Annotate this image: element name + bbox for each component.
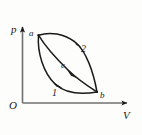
pv-diagram-canvas bbox=[0, 0, 142, 135]
process-curve-2 bbox=[39, 33, 98, 92]
state-point-b-label: b bbox=[100, 91, 105, 100]
state-point-b-marker bbox=[96, 91, 98, 93]
state-point-a-label: a bbox=[29, 29, 34, 38]
pressure-axis-label: p bbox=[11, 24, 17, 35]
process-curve-1 bbox=[38, 35, 97, 93]
state-point-a-marker bbox=[37, 34, 39, 36]
process-2-label: 2 bbox=[81, 44, 86, 54]
process-1-label: 1 bbox=[52, 88, 57, 98]
state-point-c-label: c bbox=[61, 61, 65, 70]
pv-diagram-figure: p V O a b c 1 2 bbox=[0, 0, 142, 135]
process-curve-c bbox=[39, 35, 98, 92]
origin-label: O bbox=[9, 100, 17, 111]
volume-axis-label: V bbox=[123, 110, 130, 121]
